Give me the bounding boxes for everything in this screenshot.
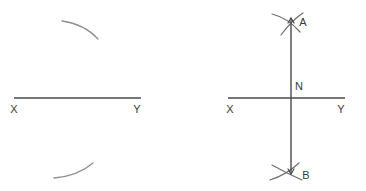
label-a-top: A xyxy=(299,16,307,28)
label-y-right: Y xyxy=(337,103,345,115)
label-x-left: X xyxy=(10,103,18,115)
figure-background xyxy=(0,0,366,191)
diagram-page: { "figure": { "title": "Perpendicular bi… xyxy=(0,0,366,191)
label-x-right: X xyxy=(226,103,234,115)
label-y-left: Y xyxy=(133,103,141,115)
geometry-figure: X Y X Y N A B xyxy=(0,0,366,191)
label-n-midpoint: N xyxy=(295,80,303,92)
label-b-bottom: B xyxy=(302,169,309,181)
